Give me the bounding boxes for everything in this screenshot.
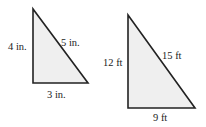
small-horizontal-leg-label: 3 in. [47, 89, 66, 100]
large-vertical-leg-label: 12 ft [103, 57, 123, 68]
small-triangle: 4 in. 5 in. 3 in. [8, 9, 88, 100]
triangles-diagram: 4 in. 5 in. 3 in. 12 ft 15 ft 9 ft [0, 0, 206, 127]
small-hypotenuse-label: 5 in. [61, 37, 80, 48]
large-triangle-shape [128, 15, 195, 108]
small-vertical-leg-label: 4 in. [8, 41, 27, 52]
large-triangle: 12 ft 15 ft 9 ft [103, 15, 195, 123]
large-hypotenuse-label: 15 ft [162, 50, 182, 61]
large-horizontal-leg-label: 9 ft [153, 112, 167, 123]
